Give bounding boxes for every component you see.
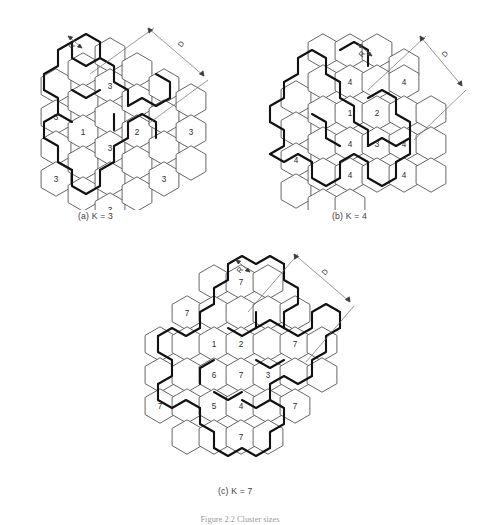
- hex-cell-label: 7: [239, 278, 244, 287]
- hex-cell-label: 7: [293, 402, 298, 411]
- panel-caption-b: (b) K = 4: [332, 211, 367, 221]
- hex-cell-label: 4: [402, 140, 407, 149]
- hex-cell: [253, 327, 283, 361]
- hex-cell-label: 3: [162, 175, 167, 184]
- dim-label-d-k3: D: [176, 39, 187, 49]
- dim-label-d-k7: D: [320, 267, 331, 277]
- panel-k3-diagram: R D 331333233: [8, 14, 240, 210]
- hex-cell: [149, 69, 179, 103]
- hex-cell: [145, 327, 175, 361]
- hex-cell-label: 3: [108, 144, 113, 153]
- panel-caption-c: (c) K = 7: [218, 486, 253, 496]
- hex-cell-label: 4: [348, 140, 353, 149]
- hex-cell-label: 3: [54, 113, 59, 122]
- hex-cell: [389, 96, 419, 130]
- hex-cell: [68, 84, 98, 118]
- hex-cell-label: 2: [239, 340, 244, 349]
- hex-cell-label: 1: [348, 109, 353, 118]
- hex-cell: [416, 158, 446, 192]
- panel-caption-a: (a) K = 3: [78, 211, 113, 221]
- hex-cell: [172, 420, 202, 454]
- hex-cells-k3: [41, 38, 206, 210]
- hex-cell: [145, 358, 175, 392]
- hex-cell-label: 7: [239, 371, 244, 380]
- hex-cell: [41, 131, 71, 165]
- hex-cell-label: 3: [108, 82, 113, 91]
- hex-cell: [335, 189, 365, 210]
- hex-cell: [308, 65, 338, 99]
- figure-container: R D 331333233 (a) K = 3: [0, 0, 480, 525]
- hex-cell: [122, 53, 152, 87]
- hex-cell: [416, 96, 446, 130]
- hex-cell-label: 6: [212, 371, 217, 380]
- hex-cell-label: 4: [348, 78, 353, 87]
- hex-cell-label: 3: [54, 175, 59, 184]
- hex-cell-label: 3: [189, 128, 194, 137]
- panel-k4-diagram: R D 4414423444: [248, 10, 480, 210]
- figure-caption: Figure 2.2 Cluster sizes: [0, 515, 480, 525]
- hex-cell: [122, 177, 152, 210]
- hex-cell-label: 2: [135, 128, 140, 137]
- hex-cell: [308, 96, 338, 130]
- hex-cell: [281, 81, 311, 115]
- dim-label-d-k4: D: [440, 49, 451, 59]
- hex-cell: [308, 189, 338, 210]
- hex-cell-label: 1: [212, 340, 217, 349]
- hex-cell: [172, 327, 202, 361]
- hex-cell-label: 4: [402, 171, 407, 180]
- hex-cell: [172, 358, 202, 392]
- hex-cell-label: 4: [239, 402, 244, 411]
- hex-cell-label: 5: [212, 402, 217, 411]
- hex-cell-label: 1: [81, 128, 86, 137]
- hex-cell: [416, 127, 446, 161]
- hex-cell: [281, 112, 311, 146]
- hex-cell: [226, 296, 256, 330]
- hex-cell-label: 4: [348, 171, 353, 180]
- panel-k7-diagram: R D 7716572747377: [120, 232, 370, 482]
- hex-cell: [122, 146, 152, 180]
- hex-cell: [176, 84, 206, 118]
- hex-cell-label: 4: [294, 156, 299, 165]
- hex-cell-label: 4: [402, 78, 407, 87]
- hex-cell: [176, 146, 206, 180]
- hex-cell-label: 7: [239, 433, 244, 442]
- hex-cell: [362, 158, 392, 192]
- hex-cell-label: 2: [375, 109, 380, 118]
- hex-cell-label: 7: [293, 340, 298, 349]
- hex-cell-label: 7: [185, 309, 190, 318]
- hex-cell: [280, 358, 310, 392]
- hex-cells-k4: [281, 34, 446, 210]
- hex-cell: [281, 174, 311, 208]
- hex-cell-label: 3: [266, 371, 271, 380]
- hex-cell: [95, 100, 125, 134]
- hex-cell-label: 3: [375, 140, 380, 149]
- hex-cell: [253, 265, 283, 299]
- hex-cell-label: 3: [108, 206, 113, 211]
- hex-cell: [149, 131, 179, 165]
- hex-cell-label: 7: [158, 402, 163, 411]
- hex-cell: [308, 127, 338, 161]
